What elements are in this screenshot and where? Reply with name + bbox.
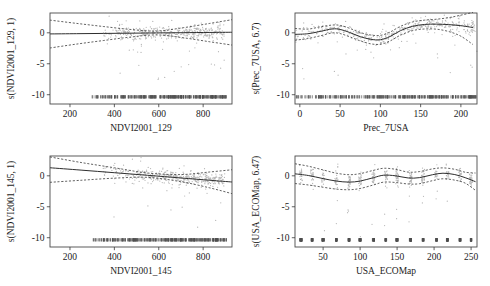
y-tick-label: 0 xyxy=(285,28,290,38)
x-tick-label: 100 xyxy=(353,252,368,262)
x-tick-label: 600 xyxy=(152,109,167,119)
fit-line xyxy=(50,168,232,182)
y-axis: 0-5-10s(Prec_7USA, 6.7) xyxy=(251,22,295,100)
x-tick-label: 400 xyxy=(107,252,122,262)
y-axis: 0-5-10s(NDVI2001_145, 1) xyxy=(6,161,50,243)
rug-plot xyxy=(93,238,226,241)
scatter-points xyxy=(103,157,226,228)
x-axis: 200400600800NDVI2001_145 xyxy=(63,247,211,276)
panel-top-right: 050100150200Prec_7USA0-5-10s(Prec_7USA, … xyxy=(245,0,490,143)
y-tick-label: -10 xyxy=(277,90,290,100)
x-tick-label: 150 xyxy=(414,109,429,119)
rug-plot xyxy=(300,238,472,241)
x-tick-label: 400 xyxy=(107,109,122,119)
scatter-points xyxy=(299,163,473,237)
plot-bottom-right: 50100150200250USA_ECOMap0-5-10s(USA_ECOM… xyxy=(245,143,490,286)
y-tick-label: -5 xyxy=(282,202,290,212)
rug-plot xyxy=(92,95,226,98)
y-tick-label: 0 xyxy=(40,171,45,181)
x-axis-title: NDVI2001_145 xyxy=(110,266,172,276)
y-axis-title: s(USA_ECOMap, 6.47) xyxy=(251,156,262,248)
y-axis-title: s(NDVI2001_145, 1) xyxy=(6,161,17,242)
x-axis-title: USA_ECOMap xyxy=(356,266,416,276)
x-tick-label: 200 xyxy=(63,252,78,262)
rug-plot xyxy=(296,95,476,98)
x-axis-title: NDVI2001_129 xyxy=(110,123,172,133)
x-tick-label: 600 xyxy=(152,252,167,262)
x-axis: 50100150200250USA_ECOMap xyxy=(318,247,478,276)
y-axis-title: s(Prec_7USA, 6.7) xyxy=(251,22,262,94)
x-axis: 200400600800NDVI2001_129 xyxy=(63,104,211,133)
panel-top-left: 200400600800NDVI2001_1290-5-10s(NDVI2001… xyxy=(0,0,245,143)
scatter-points xyxy=(103,16,225,80)
y-tick-label: -10 xyxy=(277,233,290,243)
panel-bottom-left: 200400600800NDVI2001_1450-5-10s(NDVI2001… xyxy=(0,143,245,286)
x-tick-label: 200 xyxy=(63,109,78,119)
plot-bottom-left: 200400600800NDVI2001_1450-5-10s(NDVI2001… xyxy=(0,143,245,286)
x-tick-label: 250 xyxy=(464,252,479,262)
y-tick-label: 0 xyxy=(40,28,45,38)
x-tick-label: 800 xyxy=(196,109,211,119)
x-tick-label: 0 xyxy=(297,109,302,119)
x-tick-label: 100 xyxy=(373,109,388,119)
y-tick-label: -10 xyxy=(32,233,45,243)
x-tick-label: 200 xyxy=(427,252,442,262)
x-tick-label: 800 xyxy=(196,252,211,262)
panel-bottom-right: 50100150200250USA_ECOMap0-5-10s(USA_ECOM… xyxy=(245,143,490,286)
y-tick-label: 0 xyxy=(285,171,290,181)
x-tick-label: 50 xyxy=(335,109,345,119)
x-axis: 050100150200Prec_7USA xyxy=(297,104,468,133)
y-tick-label: -5 xyxy=(282,59,290,69)
y-axis: 0-5-10s(NDVI2001_129, 1) xyxy=(6,18,50,100)
plot-top-right: 050100150200Prec_7USA0-5-10s(Prec_7USA, … xyxy=(245,0,490,143)
ci-upper-line xyxy=(50,20,232,31)
y-axis-title: s(NDVI2001_129, 1) xyxy=(6,18,17,99)
x-axis-title: Prec_7USA xyxy=(363,123,409,133)
x-tick-label: 150 xyxy=(390,252,405,262)
gam-partial-effect-figure: 200400600800NDVI2001_1290-5-10s(NDVI2001… xyxy=(0,0,490,286)
y-tick-label: -5 xyxy=(37,202,45,212)
x-tick-label: 200 xyxy=(454,109,469,119)
y-axis: 0-5-10s(USA_ECOMap, 6.47) xyxy=(251,156,295,248)
y-tick-label: -10 xyxy=(32,90,45,100)
plot-frame xyxy=(50,13,232,104)
ci-upper-line xyxy=(50,157,232,175)
plot-top-left: 200400600800NDVI2001_1290-5-10s(NDVI2001… xyxy=(0,0,245,143)
y-tick-label: -5 xyxy=(37,59,45,69)
x-tick-label: 50 xyxy=(318,252,328,262)
